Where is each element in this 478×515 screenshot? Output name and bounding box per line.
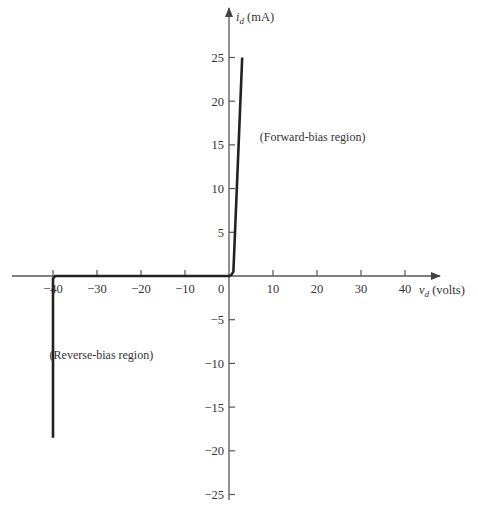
x-tick-label: −10 [175,282,195,296]
diode-iv-chart: −40−30−20−10010203040 252015105−5−10−15−… [0,0,478,515]
y-tick-label: −25 [204,488,224,502]
y-tick-label: 20 [212,95,225,109]
region-label: (Reverse-bias region) [50,348,154,362]
region-label: (Forward-bias region) [260,130,366,144]
x-tick-label: 40 [399,282,412,296]
region-annotations: (Forward-bias region)(Reverse-bias regio… [50,130,366,363]
y-tick-label: 5 [218,226,224,240]
x-tick-label: 30 [355,282,368,296]
diode-curve [53,58,242,438]
y-tick-label: −5 [211,313,224,327]
y-tick-label: −10 [204,357,224,371]
x-axis-ticks: −40−30−20−10010203040 [43,270,411,296]
y-tick-label: −15 [204,401,224,415]
x-tick-label: −20 [131,282,151,296]
x-tick-label: −30 [87,282,107,296]
x-tick-label: 20 [311,282,324,296]
y-tick-label: 15 [212,138,225,152]
x-tick-label: 0 [218,282,224,296]
x-axis-label: vd (volts) [419,283,465,299]
x-tick-label: 10 [267,282,280,296]
y-tick-label: −20 [204,444,224,458]
y-tick-label: 10 [212,182,225,196]
y-axis-label: id (mA) [236,10,274,26]
y-tick-label: 25 [212,51,225,65]
